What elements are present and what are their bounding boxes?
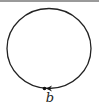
- point-label: b: [44, 91, 56, 105]
- circle-loop: [7, 9, 91, 89]
